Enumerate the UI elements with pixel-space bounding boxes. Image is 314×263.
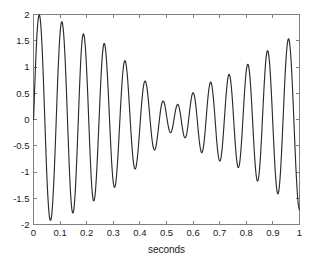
y-tick-label: 1 [24,61,29,72]
y-axis-ticks [34,15,300,225]
x-tick-label: 0.2 [80,227,93,238]
x-tick-label: 0.8 [240,227,253,238]
x-axis-ticks [34,15,300,225]
x-tick-label: 0.5 [160,227,173,238]
y-tick-label: 1.5 [16,35,29,46]
y-tick-label: -2 [21,219,29,230]
x-tick-label: 0.6 [186,227,199,238]
x-tick-label: 0.4 [133,227,146,238]
y-axis-tick-labels: -2-1.5-1-0.500.511.52 [13,9,29,230]
data-series-group [34,15,300,220]
y-tick-label: 2 [24,9,29,20]
x-axis-tick-labels: 00.10.20.30.40.50.60.70.80.91 [31,227,302,238]
axes-frame [34,15,300,225]
x-tick-label: 1 [297,227,302,238]
x-tick-label: 0.9 [266,227,279,238]
y-tick-label: -1 [21,166,29,177]
y-tick-label: 0 [24,114,29,125]
y-tick-label: -0.5 [13,140,29,151]
x-tick-label: 0.1 [53,227,66,238]
figure-canvas: 00.10.20.30.40.50.60.70.80.91 -2-1.5-1-0… [0,0,314,263]
x-tick-label: 0.7 [213,227,226,238]
y-tick-label: 0.5 [16,88,29,99]
x-tick-label: 0 [31,227,36,238]
y-tick-label: -1.5 [13,193,29,204]
data-series-line [34,15,300,220]
plot-svg: 00.10.20.30.40.50.60.70.80.91 -2-1.5-1-0… [0,0,314,263]
x-axis-title: seconds [148,244,185,255]
x-tick-label: 0.3 [107,227,120,238]
